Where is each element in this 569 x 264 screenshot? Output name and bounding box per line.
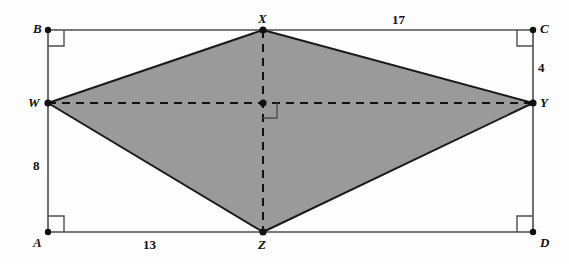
- vertex-label-a: A: [33, 236, 42, 249]
- geometry-figure: B C A D W X Y Z 17 4 8 13: [0, 0, 569, 264]
- kite-wxyz: [48, 30, 533, 232]
- vertex-dot-d: [530, 229, 536, 235]
- vertex-dot-intersection: [259, 99, 266, 106]
- vertex-label-x: X: [258, 12, 267, 25]
- vertex-dot-c: [530, 27, 536, 33]
- vertex-label-c: C: [540, 22, 549, 35]
- vertex-label-b: B: [33, 22, 42, 35]
- vertex-label-z: Z: [258, 238, 266, 251]
- vertex-label-y: Y: [540, 96, 548, 109]
- right-angle-mark-c: [517, 30, 533, 46]
- right-angle-mark-a: [48, 216, 64, 232]
- vertex-dot-w: [44, 99, 51, 106]
- vertex-dot-a: [45, 229, 51, 235]
- vertex-dot-y: [529, 99, 536, 106]
- right-angle-mark-d: [517, 216, 533, 232]
- geometry-canvas: [0, 0, 569, 264]
- vertex-dot-z: [259, 228, 266, 235]
- vertex-dot-x: [259, 26, 266, 33]
- right-angle-mark-b: [48, 30, 64, 46]
- measure-label-left: 8: [33, 159, 40, 172]
- measure-label-top: 17: [392, 13, 405, 26]
- measure-label-bottom: 13: [143, 238, 156, 251]
- measure-label-right: 4: [538, 61, 545, 74]
- vertex-label-d: D: [540, 236, 549, 249]
- vertex-dot-b: [45, 27, 51, 33]
- vertex-label-w: W: [28, 96, 40, 109]
